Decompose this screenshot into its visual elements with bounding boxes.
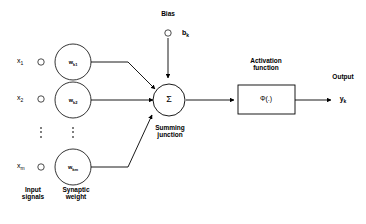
output-caption: Output <box>332 73 353 80</box>
weight-to-sum-arrow-3 <box>91 115 152 167</box>
summing-junction-caption-line1: Summing <box>155 124 185 131</box>
neuron-diagram-canvas: x1 x2 xm wk1 wk2 wkm Input signals Synap… <box>0 0 366 224</box>
bias-node-circle <box>165 30 171 36</box>
output-symbol-label: yk <box>340 95 347 105</box>
input-node-circle-3 <box>38 164 44 170</box>
synaptic-weight-label-2: wk2 <box>69 97 78 106</box>
summing-junction-caption-line2: junction <box>155 131 185 138</box>
input-signal-label-1: x1 <box>17 57 23 67</box>
synaptic-weight-caption-line1: Synaptic <box>62 186 89 193</box>
synaptic-weight-label-1: wk1 <box>69 59 78 68</box>
synaptic-weight-label-3: wkm <box>68 164 78 173</box>
activation-function-symbol: Φ(.) <box>260 95 272 103</box>
input-signals-caption: Input signals <box>22 186 44 201</box>
bias-caption: Bias <box>161 10 175 17</box>
weight-to-sum-arrow-1 <box>91 62 155 89</box>
bias-symbol-label: bk <box>182 29 189 39</box>
input-signal-label-2: x2 <box>17 94 23 104</box>
activation-function-caption: Activation function <box>250 57 281 72</box>
input-signals-caption-line2: signals <box>22 193 44 200</box>
input-node-circle-1 <box>38 59 44 65</box>
summing-junction-caption: Summing junction <box>155 124 185 139</box>
synaptic-weight-caption-line2: weight <box>62 193 89 200</box>
input-column-ellipsis <box>40 124 42 140</box>
input-node-circle-2 <box>38 96 44 102</box>
input-signal-label-3: xm <box>17 162 25 172</box>
input-signals-caption-line1: Input <box>22 186 44 193</box>
activation-function-caption-line2: function <box>250 64 281 71</box>
weight-column-ellipsis <box>72 124 74 140</box>
synaptic-weight-caption: Synaptic weight <box>62 186 89 201</box>
activation-function-caption-line1: Activation <box>250 57 281 64</box>
summing-junction-symbol: Σ <box>166 94 172 104</box>
